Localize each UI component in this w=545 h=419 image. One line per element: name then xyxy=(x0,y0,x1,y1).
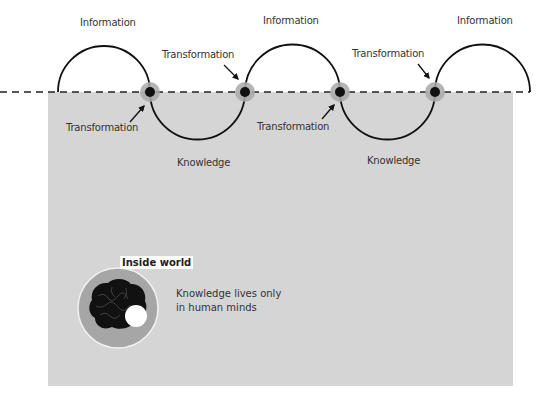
transformation-node-1 xyxy=(140,82,160,102)
transformation-label-above-1: Transformation xyxy=(162,49,234,60)
transformation-node-2 xyxy=(235,82,255,102)
arrow-to-node-3 xyxy=(322,105,334,119)
description-line-2: in human minds xyxy=(176,301,281,315)
arrow-to-node-1 xyxy=(130,106,144,122)
knowledge-arc-1 xyxy=(150,92,245,140)
inside-world-icon xyxy=(78,268,158,348)
knowledge-label-1: Knowledge xyxy=(177,157,230,168)
information-label-3: Information xyxy=(457,15,513,26)
arrow-to-node-2 xyxy=(224,65,238,79)
inside-world-title: Inside world xyxy=(120,256,193,269)
inside-world-description: Knowledge lives only in human minds xyxy=(176,287,281,315)
information-arc-2 xyxy=(245,45,340,92)
white-dot-icon xyxy=(125,305,147,327)
description-line-1: Knowledge lives only xyxy=(176,287,281,301)
information-arc-3 xyxy=(435,45,530,92)
arrow-to-node-4 xyxy=(418,64,429,78)
transformation-label-below-1: Transformation xyxy=(66,122,138,133)
information-arc-1 xyxy=(58,46,150,92)
information-label-2: Information xyxy=(263,15,319,26)
information-label-1: Information xyxy=(80,17,136,28)
knowledge-arc-2 xyxy=(340,92,435,140)
knowledge-cycle-diagram xyxy=(0,0,545,419)
knowledge-label-2: Knowledge xyxy=(367,155,420,166)
transformation-node-3 xyxy=(330,82,350,102)
transformation-label-below-2: Transformation xyxy=(257,121,329,132)
transformation-node-4 xyxy=(425,82,445,102)
transformation-label-above-2: Transformation xyxy=(352,48,424,59)
